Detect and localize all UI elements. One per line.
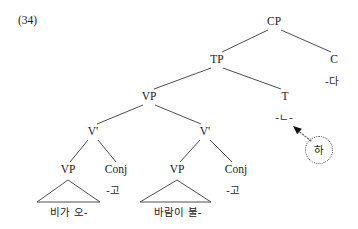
- terminal-triangles: [37, 180, 211, 202]
- morpheme-conj-r-m: -고: [226, 185, 240, 196]
- terminal-term-r: 바람이 불-: [154, 207, 201, 218]
- branch-Vbar_L-to-Conj_L: [98, 140, 116, 162]
- node-vp-l: VP: [61, 164, 76, 176]
- node-cp: CP: [267, 16, 281, 28]
- node-vbar-l: V': [88, 126, 98, 138]
- node-c: C: [330, 54, 338, 66]
- branch-Vbar_L-to-VP_L: [70, 140, 88, 162]
- branch-VP_top-to-Vbar_L: [97, 105, 143, 124]
- tree-lines-svg: [0, 0, 358, 229]
- triangle-under-VP_R: [140, 180, 211, 202]
- branch-CP-to-TP: [222, 30, 268, 52]
- morpheme-conj-l-m: -고: [106, 185, 120, 196]
- terminal-term-l: 비가 오-: [50, 207, 87, 218]
- branch-TP-to-T: [223, 68, 281, 89]
- node-conj-r: Conj: [225, 164, 247, 176]
- syntax-tree-figure: (34) CPTPC-다VPT-ㄴ-V'V'VPConj-고VPConj-고비가…: [0, 0, 358, 229]
- node-vp-r: VP: [170, 164, 185, 176]
- branch-VP_top-to-Vbar_R: [155, 105, 201, 124]
- morpheme-c-morph: -다: [325, 76, 339, 87]
- node-vbar-r: V': [200, 126, 210, 138]
- branch-CP-to-C: [281, 30, 331, 52]
- node-conj-l: Conj: [105, 164, 127, 176]
- node-vp-top: VP: [142, 91, 157, 103]
- morpheme-t-morph: -ㄴ-: [275, 112, 293, 123]
- node-t: T: [281, 91, 288, 103]
- movement-arrow: [293, 126, 311, 141]
- moved-element-circle: 하: [305, 136, 333, 164]
- branch-Vbar_R-to-Conj_R: [210, 140, 232, 162]
- branch-lines: [70, 30, 331, 162]
- moved-element-label: 하: [314, 145, 324, 156]
- branch-Vbar_R-to-VP_R: [180, 140, 200, 162]
- triangle-under-VP_L: [37, 180, 100, 202]
- node-tp: TP: [210, 54, 223, 66]
- branch-TP-to-VP_top: [154, 68, 211, 89]
